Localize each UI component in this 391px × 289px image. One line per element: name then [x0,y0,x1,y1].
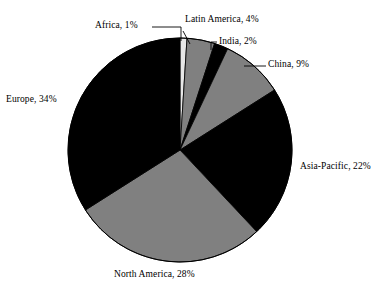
slice-label-china: China, 9% [268,60,309,70]
slice-label-latin-america: Latin America, 4% [185,15,259,25]
pie-slice-group [68,38,292,262]
slice-label-india: India, 2% [219,37,257,47]
pie-chart-canvas [0,0,391,289]
slice-label-europe: Europe, 34% [6,95,57,105]
slice-label-africa: Africa, 1% [95,21,138,31]
slice-label-north-america: North America, 28% [114,270,195,280]
pie-chart-figure: Europe, 34% Africa, 1% Latin America, 4%… [0,0,391,289]
slice-label-asia-pacific: Asia-Pacific, 22% [300,162,371,172]
